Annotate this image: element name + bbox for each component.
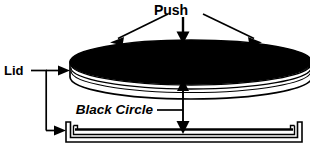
lid-bracket [31,66,70,136]
lid-disc [70,40,310,99]
black-circle-top [70,40,310,84]
diagram-canvas: Push Lid Black Circle [0,0,310,146]
lid-push-diagram: Push Lid Black Circle [0,0,310,146]
black-circle-label: Black Circle [76,102,154,117]
lid-bracket-lower-head [54,126,66,136]
lid-label: Lid [4,63,24,78]
dimension-arrow-head-down [177,121,190,134]
lid-bracket-upper-head [58,66,70,76]
push-label: Push [154,2,188,18]
push-arrow-right-shaft [203,14,254,39]
